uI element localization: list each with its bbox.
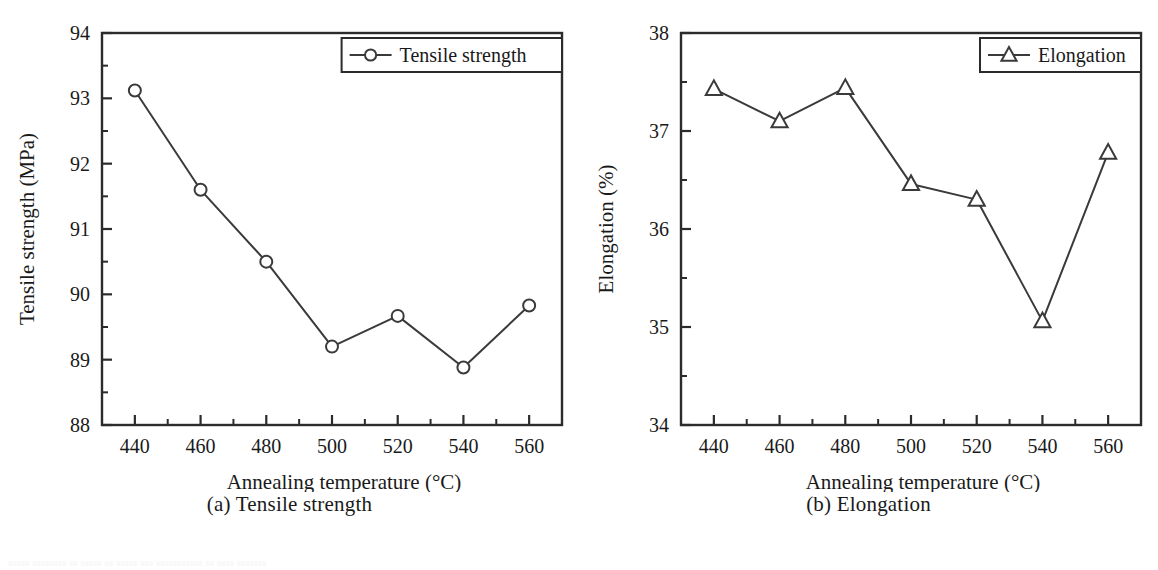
y-axis-title: Tensile strength (MPa) xyxy=(15,133,39,325)
legend[interactable]: Elongation xyxy=(980,38,1141,72)
x-tick-label: 440 xyxy=(699,435,729,457)
y-tick-label: 38 xyxy=(649,22,669,44)
data-point-marker[interactable] xyxy=(706,80,722,95)
data-point-marker[interactable] xyxy=(523,299,535,311)
legend-label: Elongation xyxy=(1038,44,1126,67)
data-point-marker[interactable] xyxy=(457,362,469,374)
data-point-marker[interactable] xyxy=(260,256,272,268)
data-point-marker[interactable] xyxy=(771,113,787,128)
x-tick-label: 540 xyxy=(448,435,478,457)
data-point-marker[interactable] xyxy=(392,310,404,322)
data-point-marker[interactable] xyxy=(1034,313,1050,328)
plot-frame xyxy=(681,33,1141,425)
y-tick-label: 36 xyxy=(649,218,669,240)
x-axis-title: Annealing temperature (°C) xyxy=(227,470,462,492)
x-tick-label: 560 xyxy=(514,435,544,457)
y-tick-label: 90 xyxy=(70,283,90,305)
x-tick-label: 500 xyxy=(896,435,926,457)
y-tick-label: 35 xyxy=(649,316,669,338)
data-point-marker[interactable] xyxy=(326,341,338,353)
x-tick-label: 480 xyxy=(830,435,860,457)
y-tick-label: 89 xyxy=(70,349,90,371)
data-markers xyxy=(129,84,535,373)
elongation-chart: 3435363738440460480500520540560Annealing… xyxy=(579,0,1158,492)
x-tick-label: 520 xyxy=(962,435,992,457)
x-tick-label: 500 xyxy=(317,435,347,457)
x-axis-title: Annealing temperature (°C) xyxy=(806,470,1041,492)
plot-frame xyxy=(102,33,562,425)
chart-panel-elongation: 3435363738440460480500520540560Annealing… xyxy=(579,0,1158,540)
x-tick-label: 540 xyxy=(1027,435,1057,457)
legend-label: Tensile strength xyxy=(400,44,527,67)
x-tick-label: 560 xyxy=(1093,435,1123,457)
x-tick-label: 460 xyxy=(186,435,216,457)
chart-panel-tensile-strength: 88899091929394440460480500520540560Annea… xyxy=(0,0,579,540)
subcaption-panel-a: (a) Tensile strength xyxy=(0,492,579,517)
x-tick-label: 480 xyxy=(251,435,281,457)
legend-sample-marker xyxy=(365,49,376,60)
data-series-line xyxy=(135,90,529,367)
y-tick-label: 34 xyxy=(649,414,669,436)
subcaption-panel-b: (b) Elongation xyxy=(579,492,1158,517)
figure-two-panel: 88899091929394440460480500520540560Annea… xyxy=(0,0,1158,570)
data-point-marker[interactable] xyxy=(129,84,141,96)
y-tick-label: 92 xyxy=(70,153,90,175)
x-tick-label: 520 xyxy=(383,435,413,457)
cropped-body-text: sssss ssssssss ss sssss ss sssss sss sss… xyxy=(8,556,438,568)
legend[interactable]: Tensile strength xyxy=(342,38,562,72)
data-point-marker[interactable] xyxy=(195,184,207,196)
x-tick-label: 440 xyxy=(120,435,150,457)
y-tick-label: 93 xyxy=(70,87,90,109)
axis-ticks xyxy=(681,33,1108,425)
data-point-marker[interactable] xyxy=(837,79,853,94)
data-point-marker[interactable] xyxy=(903,175,919,190)
y-tick-label: 88 xyxy=(70,414,90,436)
tensile-strength-chart: 88899091929394440460480500520540560Annea… xyxy=(0,0,579,492)
y-tick-label: 37 xyxy=(649,120,669,142)
y-tick-label: 91 xyxy=(70,218,90,240)
y-axis-title: Elongation (%) xyxy=(594,165,618,294)
y-tick-label: 94 xyxy=(70,22,90,44)
x-tick-label: 460 xyxy=(765,435,795,457)
data-point-marker[interactable] xyxy=(1100,144,1116,159)
